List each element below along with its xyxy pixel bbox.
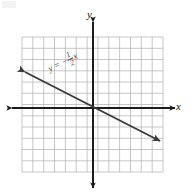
- x-axis-label: x: [176, 101, 181, 112]
- y-axis-label: y: [87, 9, 92, 20]
- coordinate-plane: [0, 0, 194, 196]
- graph-figure: x y y = −12x: [0, 0, 194, 196]
